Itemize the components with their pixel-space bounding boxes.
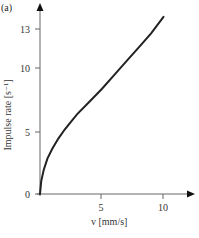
ytick-label-0: 0	[25, 189, 30, 200]
xtick-label-5: 5	[99, 202, 104, 213]
ytick-label-10: 10	[20, 63, 30, 74]
y-ticks	[35, 29, 40, 194]
impulse-rate-curve	[40, 17, 164, 194]
x-axis-arrow-icon	[187, 191, 195, 198]
y-axis-title: Impulse rate [s⁻¹]	[2, 79, 13, 150]
y-axis-arrow-icon	[37, 3, 44, 11]
ytick-label-13: 13	[20, 24, 30, 35]
xtick-label-10: 10	[158, 202, 168, 213]
chart-canvas: 0 5 10 13 5 10 v [mm/s] Impulse rate [s⁻…	[0, 0, 199, 238]
x-axis-title: v [mm/s]	[91, 216, 127, 227]
ytick-label-5: 5	[25, 127, 30, 138]
x-ticks	[101, 194, 163, 199]
